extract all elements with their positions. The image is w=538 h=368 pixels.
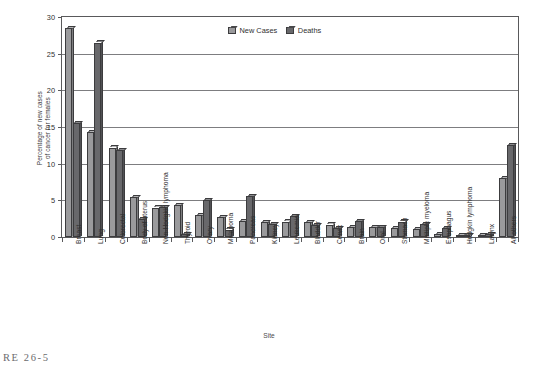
bar-group (475, 17, 497, 237)
bar-new-cases (434, 234, 441, 237)
bar-group (192, 17, 214, 237)
x-tick-label: Colorectal (119, 214, 126, 244)
x-axis-title: Site (0, 332, 538, 339)
bar-group (431, 17, 453, 237)
x-tick-label: Larynx (488, 224, 495, 244)
bar-new-cases (217, 217, 224, 237)
x-tick-mark (323, 238, 324, 242)
bar-group (366, 17, 388, 237)
bar-new-cases (87, 132, 94, 237)
bar-new-cases (239, 221, 246, 237)
bar-group (105, 17, 127, 237)
x-tick-mark (257, 238, 258, 242)
y-tick-label: 30 (29, 13, 55, 22)
bar-new-cases (369, 227, 376, 237)
legend-item: Deaths (286, 26, 321, 35)
x-tick-label: Stomach (401, 218, 408, 244)
chart-legend: New CasesDeaths (228, 26, 321, 35)
legend-swatch (228, 27, 236, 34)
bar-face (304, 222, 311, 237)
bar-new-cases (456, 235, 463, 237)
bar-group (279, 17, 301, 237)
x-tick-mark (279, 238, 280, 242)
x-tick-mark (366, 238, 367, 242)
x-tick-label: Pancreas (249, 216, 256, 244)
x-tick-label: Kidney (271, 224, 278, 244)
x-tick-label: Brain (358, 228, 365, 244)
bar-new-cases (195, 215, 202, 237)
bar-top-face (67, 26, 76, 28)
bar-new-cases (109, 148, 116, 237)
x-tick-mark (409, 238, 410, 242)
x-tick-mark (518, 238, 519, 242)
bar-top-face (118, 148, 127, 150)
x-tick-label: Ovary (206, 226, 213, 244)
x-tick-label: Hodgkin lymphoma (466, 187, 473, 244)
bar-face (413, 229, 420, 237)
bar-group (301, 17, 323, 237)
bar-new-cases (478, 235, 485, 237)
x-tick-mark (431, 238, 432, 242)
bar-group (388, 17, 410, 237)
bar-group (257, 17, 279, 237)
bar-new-cases (282, 222, 289, 237)
x-tick-label: Non-Hodgkin lymphoma (162, 172, 169, 244)
x-tick-label: Leukemia (293, 215, 300, 244)
x-tick-mark (453, 238, 454, 242)
x-tick-label: Breast (75, 225, 82, 244)
x-tick-label: Multiple myeloma (423, 192, 430, 244)
x-tick-mark (105, 238, 106, 242)
x-tick-mark (149, 238, 150, 242)
x-tick-mark (214, 238, 215, 242)
bar-new-cases (326, 225, 333, 237)
bar-face (261, 222, 268, 237)
bar-face (87, 132, 94, 237)
legend-label: New Cases (240, 26, 278, 35)
x-tick-label: Cervix (336, 225, 343, 244)
bar-new-cases (261, 222, 268, 237)
bar-group (236, 17, 258, 237)
bar-group (344, 17, 366, 237)
bar-group (62, 17, 84, 237)
legend-swatch (286, 27, 294, 34)
x-tick-label: Body of uterus (141, 201, 148, 244)
bar-new-cases (152, 208, 159, 237)
x-tick-label: All others (510, 216, 517, 244)
x-tick-mark (344, 238, 345, 242)
bar-deaths (94, 43, 101, 237)
bar-deaths (73, 123, 80, 237)
bar-face (152, 208, 159, 237)
bar-face (326, 225, 333, 237)
x-tick-label: Lung (97, 229, 104, 244)
x-tick-mark (496, 238, 497, 242)
x-tick-label: Oral (379, 231, 386, 244)
legend-label: Deaths (298, 26, 321, 35)
x-tick-label: Esophagus (445, 211, 452, 244)
x-tick-mark (475, 238, 476, 242)
bar-group (171, 17, 193, 237)
x-axis-labels: BreastLungColorectalBody of uterusNon-Ho… (62, 244, 518, 324)
bar-group (496, 17, 518, 237)
legend-item: New Cases (228, 26, 277, 35)
x-tick-label: Bladder (314, 221, 321, 244)
bar-new-cases (174, 205, 181, 237)
bar-face (391, 228, 398, 237)
x-tick-mark (301, 238, 302, 242)
bars-layer (62, 17, 518, 237)
bar-side-face (181, 203, 183, 237)
bar-new-cases (304, 222, 311, 237)
x-tick-label: Melanoma (227, 213, 234, 244)
x-tick-mark (192, 238, 193, 242)
bar-new-cases (413, 229, 420, 237)
x-tick-mark (127, 238, 128, 242)
bar-top-face (132, 195, 141, 197)
x-tick-mark (171, 238, 172, 242)
bar-new-cases (499, 178, 506, 237)
bar-side-face (101, 41, 103, 237)
x-tick-mark (236, 238, 237, 242)
figure-root: Percentage of new cases of cancer for fe… (0, 0, 538, 368)
bar-group (214, 17, 236, 237)
bar-side-face (80, 122, 82, 237)
bar-new-cases (391, 228, 398, 237)
y-tick-label: 0 (29, 233, 55, 242)
